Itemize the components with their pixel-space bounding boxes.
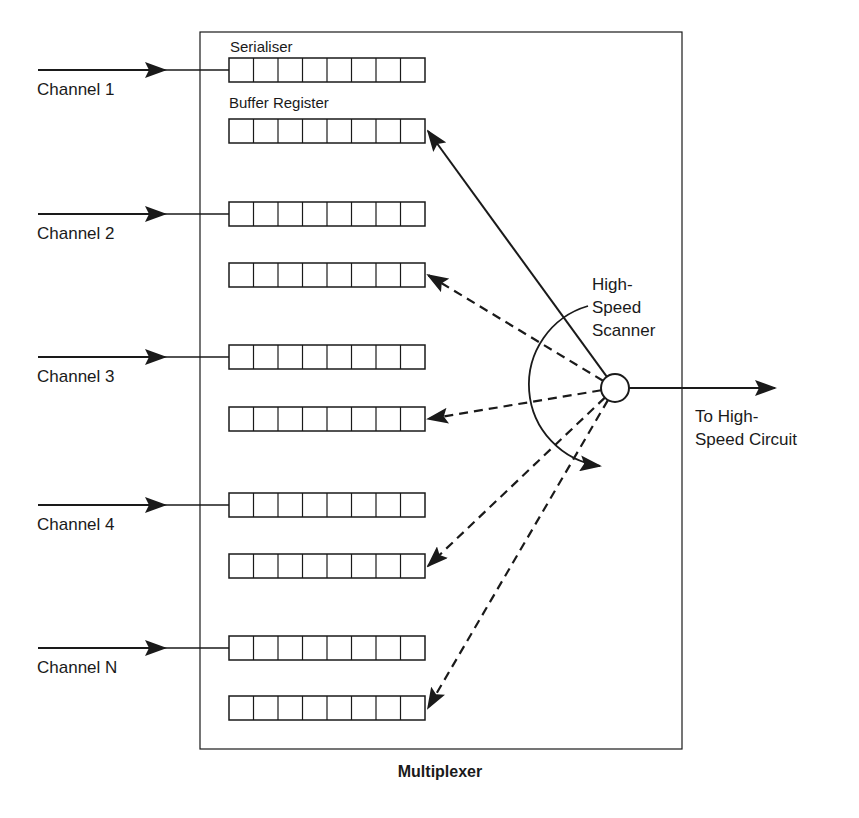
scanner-sweep-lines	[428, 131, 608, 708]
channel-label: Channel N	[37, 658, 117, 677]
buffer-register	[229, 696, 425, 720]
channel-3: Channel 3	[37, 345, 425, 431]
serialiser-register	[229, 345, 425, 369]
multiplexer-diagram: Serialiser Buffer Register Channel 1Chan…	[0, 0, 859, 818]
channel-label: Channel 2	[37, 224, 115, 243]
serialiser-register	[229, 636, 425, 660]
serialiser-register	[229, 202, 425, 226]
channel-groups: Channel 1Channel 2Channel 3Channel 4Chan…	[37, 58, 425, 720]
pending-scan-line	[428, 400, 608, 708]
high-speed-scanner-node	[601, 374, 629, 402]
serialiser-register	[229, 58, 425, 82]
output-label-line2: Speed Circuit	[695, 430, 797, 449]
scanner-label-line2: Speed	[592, 298, 641, 317]
pending-scan-line	[428, 275, 603, 381]
channel-label: Channel 1	[37, 80, 115, 99]
output-label-line1: To High-	[695, 407, 758, 426]
buffer-register	[229, 407, 425, 431]
pending-scan-line	[428, 390, 601, 419]
diagram-title: Multiplexer	[398, 763, 482, 780]
channel-4: Channel 4	[37, 493, 425, 578]
scanner-label-line1: High-	[592, 275, 633, 294]
buffer-register	[229, 263, 425, 287]
channel-label: Channel 4	[37, 515, 115, 534]
buffer-register	[229, 554, 425, 578]
buffer-register	[229, 119, 425, 143]
scanner-label-line3: Scanner	[592, 321, 656, 340]
channel-label: Channel 3	[37, 367, 115, 386]
channel-2: Channel 2	[37, 202, 425, 287]
channel-5: Channel N	[37, 636, 425, 720]
serialiser-label: Serialiser	[230, 38, 293, 55]
pending-scan-line	[428, 398, 605, 566]
active-scan-line	[428, 131, 607, 377]
buffer-register-label: Buffer Register	[229, 94, 329, 111]
serialiser-register	[229, 493, 425, 517]
scan-direction-arc-arrow	[529, 306, 600, 466]
